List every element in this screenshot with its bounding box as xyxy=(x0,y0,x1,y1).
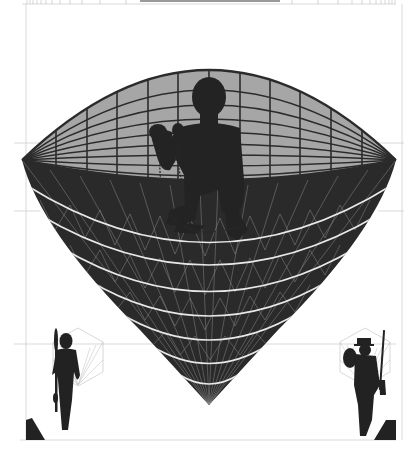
right-rifle-figure xyxy=(340,328,396,440)
artwork-canvas xyxy=(0,0,418,468)
title-fragment xyxy=(140,0,280,2)
left-spear-figure xyxy=(26,328,103,440)
